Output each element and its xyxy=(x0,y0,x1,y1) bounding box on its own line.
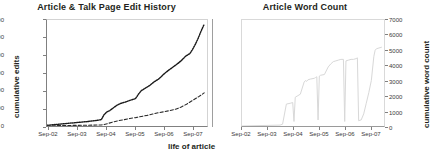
x-tickmark-sep-03-right xyxy=(267,127,268,130)
x-tickmark-sep-06-right xyxy=(345,127,346,130)
x-tickmark-sep-05-left xyxy=(135,127,136,130)
y-tickmark-2000 xyxy=(385,96,388,97)
y-axis-label-cumulative-edits: cumulative edits xyxy=(12,55,21,118)
chart-title-word-count: Article Word Count xyxy=(215,2,395,12)
x-axis-label-life-of-article: life of article xyxy=(168,142,215,151)
y-tick-4000: 4000 xyxy=(389,63,415,69)
x-tick-sep-07-left: Sep-07 xyxy=(178,131,208,138)
x-tick-sep-06-left: Sep-06 xyxy=(149,131,179,138)
y-tickmark-0 xyxy=(43,127,46,128)
x-tickmark-sep-05-right xyxy=(319,127,320,130)
y-tick-7000: 7000 xyxy=(389,17,415,23)
y-tickmark-5000 xyxy=(385,50,388,51)
x-tick-sep-04-left: Sep-04 xyxy=(91,131,121,138)
x-tickmark-sep-03-left xyxy=(77,127,78,130)
y-tickmark-800 xyxy=(43,55,46,56)
chart-title-edit-history: Article & Talk Page Edit History xyxy=(4,2,209,12)
y-tickmark-200 xyxy=(43,109,46,110)
y-axis-label-cumulative-word-count: cumulative word count xyxy=(422,41,431,128)
series-word-count xyxy=(242,47,381,126)
figure-container: Article & Talk Page Edit History cumulat… xyxy=(0,0,434,161)
chart-panel-word-count: Article Word Count 7000 6000 5000 4000 3… xyxy=(215,0,434,161)
x-tickmark-sep-06-left xyxy=(164,127,165,130)
x-tick-sep-02-left: Sep-02 xyxy=(33,131,63,138)
y-tickmark-1200 xyxy=(43,19,46,20)
y-tick-200: 200 xyxy=(0,105,4,111)
y-tickmark-1000 xyxy=(385,112,388,113)
edit-history-series-group xyxy=(47,20,207,126)
y-tickmark-7000 xyxy=(385,19,388,20)
y-tick-3000: 3000 xyxy=(389,79,415,85)
word-count-series-group xyxy=(242,20,384,126)
series-article-edits xyxy=(47,24,204,125)
x-tickmark-sep-07-left xyxy=(193,127,194,130)
y-tickmark-0r xyxy=(385,127,388,128)
y-tick-5000: 5000 xyxy=(389,48,415,54)
y-tickmark-600 xyxy=(43,73,46,74)
y-tickmark-3000 xyxy=(385,81,388,82)
y-tick-0: 0 xyxy=(0,123,4,129)
y-tick-6000: 6000 xyxy=(389,32,415,38)
plot-area-word-count xyxy=(241,19,385,127)
panel-divider xyxy=(212,19,213,127)
y-tickmark-400 xyxy=(43,91,46,92)
y-tick-600: 600 xyxy=(0,70,4,76)
plot-area-edit-history xyxy=(46,19,208,127)
y-tick-1200: 1200 xyxy=(0,17,4,23)
x-tickmark-sep-04-right xyxy=(293,127,294,130)
series-talk-page-edits xyxy=(47,93,204,126)
y-tick-1000: 1000 xyxy=(389,110,415,116)
y-tick-2000: 2000 xyxy=(389,94,415,100)
x-tick-sep-07-right: Sep-07 xyxy=(356,131,386,138)
y-tick-800: 800 xyxy=(0,52,4,58)
y-tick-400: 400 xyxy=(0,87,4,93)
x-tickmark-sep-07-right xyxy=(371,127,372,130)
x-tick-sep-03-left: Sep-03 xyxy=(62,131,92,138)
y-tick-0r: 0 xyxy=(389,125,415,131)
x-tickmark-sep-02-right xyxy=(241,127,242,130)
y-tickmark-6000 xyxy=(385,34,388,35)
x-tickmark-sep-02-left xyxy=(48,127,49,130)
y-tickmark-1000 xyxy=(43,37,46,38)
y-tick-1000: 1000 xyxy=(0,34,4,40)
x-tickmark-sep-04-left xyxy=(106,127,107,130)
chart-panel-edit-history: Article & Talk Page Edit History cumulat… xyxy=(0,0,215,161)
x-tick-sep-05-left: Sep-05 xyxy=(120,131,150,138)
y-tickmark-4000 xyxy=(385,65,388,66)
